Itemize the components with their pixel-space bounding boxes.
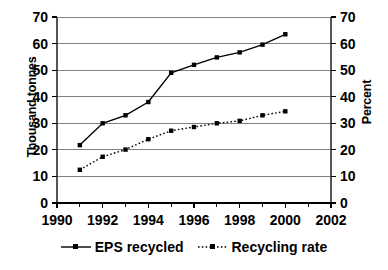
chart-legend: EPS recycled Recycling rate xyxy=(0,240,388,254)
plot-area xyxy=(0,0,388,270)
legend-label-recycling-rate: Recycling rate xyxy=(232,240,328,254)
series-1 xyxy=(78,109,288,172)
legend-item-1: Recycling rate xyxy=(198,240,328,254)
chart-container: Thousand tonnes Percent 010203040506070 … xyxy=(0,0,388,270)
series-0 xyxy=(78,32,288,147)
legend-item-0: EPS recycled xyxy=(61,240,184,254)
legend-swatch-dotted xyxy=(198,241,228,253)
legend-label-eps-recycled: EPS recycled xyxy=(95,240,184,254)
legend-swatch-solid xyxy=(61,241,91,253)
